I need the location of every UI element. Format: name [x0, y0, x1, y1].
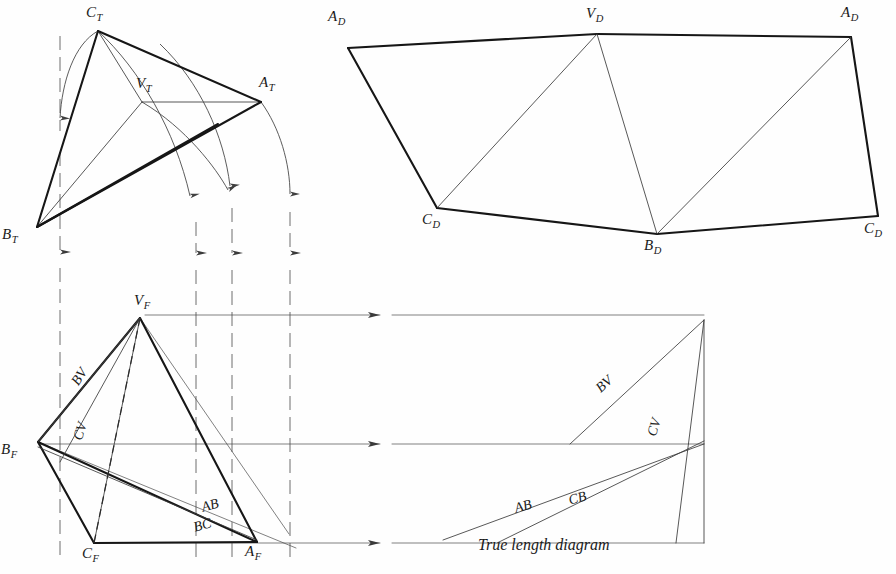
horizontal-projection-lines: [38, 315, 704, 548]
tl-ray-bv: [570, 320, 704, 444]
swing-arc-at: [261, 102, 290, 194]
front-edge-va: [140, 318, 257, 542]
front-edge-ca: [94, 542, 257, 543]
dev-edge-cd-ad: [348, 48, 437, 208]
front-label-leader-cv: [60, 318, 140, 462]
front-label-leader-bv: [38, 318, 140, 442]
top-edge-vb: [37, 102, 142, 227]
top-view-figure: [37, 31, 261, 227]
label-vf: VF: [134, 292, 150, 309]
label-cd-left: CD: [422, 211, 440, 228]
swing-arc-ct-to-v: [98, 31, 190, 196]
label-cd-right: CD: [864, 220, 882, 237]
true-length-diagram-figure: [443, 320, 704, 543]
label-ct: CT: [86, 4, 102, 21]
swing-arc-mid: [160, 44, 230, 186]
dev-fold-vd-bd: [597, 34, 657, 234]
dev-edge-vd-ad: [597, 34, 851, 37]
label-ad-left: AD: [328, 8, 345, 25]
dev-edge-ad-cd: [851, 37, 878, 216]
true-length-diagram-caption: True length diagram: [478, 536, 610, 554]
drawing-canvas: [0, 0, 896, 574]
label-bd: BD: [644, 237, 661, 254]
tl-ray-cv: [676, 320, 704, 543]
front-edge-bc: [38, 442, 94, 543]
label-ad-right: AD: [841, 4, 858, 21]
drawing-plate: CT VT AT BT AD VD AD CD BD CD VF BF CF A…: [0, 0, 896, 574]
label-bt: BT: [2, 226, 17, 243]
swing-arcs: [60, 31, 290, 196]
dev-edge-cd-bd: [657, 216, 878, 234]
tl-ray-cb: [497, 441, 704, 543]
front-view-figure: [38, 318, 257, 543]
swing-arc-ct: [60, 31, 98, 118]
front-edge-ba: [38, 442, 257, 542]
development-view-figure: [348, 34, 878, 234]
label-bf: BF: [1, 441, 17, 458]
dev-edge-bd-cd: [437, 208, 657, 234]
vertical-projection-lines: [60, 36, 290, 560]
label-af: AF: [245, 543, 261, 560]
dev-fold-vd-cd: [437, 34, 597, 208]
front-aux-projector-diag2: [38, 442, 296, 548]
label-cf: CF: [82, 545, 98, 562]
label-vt: VT: [136, 75, 151, 92]
dev-fold-bd-ad: [657, 37, 851, 234]
label-at: AT: [259, 74, 274, 91]
front-edge-ba-second: [38, 447, 257, 540]
top-edge-ca: [98, 31, 261, 102]
dev-edge-ad-vd: [348, 34, 597, 48]
label-vd: VD: [586, 5, 603, 22]
